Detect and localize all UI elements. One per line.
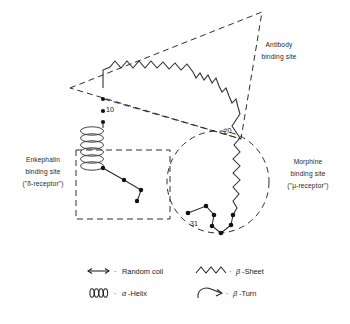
random-coil-chain	[101, 166, 143, 203]
beta-sheet-zigzag-path	[103, 61, 240, 138]
beta-turn-icon	[198, 288, 222, 298]
legend-label-beta-sheet: -Sheet	[242, 267, 264, 276]
legend-item-beta-sheet: · β -Sheet	[196, 267, 264, 276]
morphine-label-line3: ("μ-receptor")	[287, 182, 328, 190]
legend-item-beta-turn: · β -Turn	[198, 288, 256, 298]
legend-label-beta-turn: -Turn	[239, 289, 256, 298]
antibody-binding-site-region	[70, 12, 262, 139]
enkephalin-label-line3: ("δ-receptor")	[22, 180, 63, 188]
morphine-dashed-circle	[167, 131, 269, 233]
random-coil-path	[103, 168, 141, 201]
morphine-label-line2: binding site	[290, 170, 325, 178]
residue-dot	[210, 224, 215, 229]
helix-loops	[81, 127, 104, 170]
legend-separator: ·	[226, 289, 228, 298]
residue-dot	[101, 109, 105, 113]
residue-dot	[122, 178, 126, 182]
residue-number-31: 31	[190, 219, 198, 228]
legend-item-alpha-helix: · α -Helix	[90, 289, 147, 298]
legend-greek-beta: β	[232, 289, 238, 298]
legend-separator: ·	[114, 289, 116, 298]
morphine-label-line1: Morphine	[294, 158, 323, 166]
beta-sheet-icon	[196, 267, 226, 273]
morphine-binding-site-region	[167, 131, 269, 233]
legend-separator: ·	[229, 267, 231, 276]
random-coil-icon	[88, 269, 109, 274]
alpha-helix-icon	[90, 289, 108, 298]
enkephalin-dashed-box	[76, 150, 170, 219]
beta-endorphin-diagram: 10 20 31	[0, 0, 350, 324]
residue-dot	[212, 213, 217, 218]
residue-dot	[229, 223, 234, 228]
antibody-dashed-triangle	[70, 12, 262, 139]
residue-dot	[135, 199, 139, 203]
legend-greek-alpha: α	[122, 289, 127, 298]
legend-label-alpha-helix: -Helix	[128, 289, 147, 298]
antibody-label-line1: Antibody	[266, 41, 293, 49]
legend-greek-beta: β	[235, 267, 241, 276]
enkephalin-label-line2: binding site	[25, 168, 60, 176]
beta-sheet-vertical-zigzag	[233, 138, 240, 215]
antibody-internal-dashed-line	[104, 99, 241, 139]
legend-separator: ·	[114, 267, 116, 276]
residue-dot	[219, 231, 224, 236]
residue-dot	[101, 166, 105, 170]
legend: · Random coil · β -Sheet · α -Helix	[88, 267, 264, 298]
legend-label-random-coil: Random coil	[122, 267, 163, 276]
residue-number-10: 10	[106, 105, 114, 114]
residue-dot	[204, 204, 209, 209]
enkephalin-binding-site-region	[76, 150, 170, 219]
residue-dot	[139, 188, 143, 192]
alpha-helix-coil	[81, 122, 104, 170]
beta-sheet-upper-chain	[103, 61, 240, 138]
residue-10-markers	[101, 97, 105, 124]
residue-dot	[186, 211, 191, 216]
beta-sheet-morphine-chain	[233, 138, 240, 215]
legend-item-random-coil: · Random coil	[88, 267, 163, 276]
residue-number-20: 20	[223, 125, 233, 135]
antibody-label: Antibody binding site	[261, 41, 296, 61]
enkephalin-label-line1: Enkephalin	[26, 156, 60, 164]
morphine-label: Morphine binding site ("μ-receptor")	[287, 158, 328, 190]
antibody-label-line2: binding site	[261, 53, 296, 61]
residue-dot	[231, 213, 236, 218]
enkephalin-label: Enkephalin binding site ("δ-receptor")	[22, 156, 63, 188]
